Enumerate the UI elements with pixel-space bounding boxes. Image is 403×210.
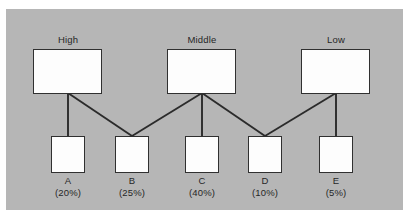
child-percent-e: (5%) [310, 187, 362, 198]
hierarchy-diagram: High Middle Low A (20%) B (25%) C (40%) … [0, 0, 403, 210]
connector-high-b [68, 93, 132, 136]
child-name-e: E [310, 175, 362, 186]
child-name-c: C [176, 175, 228, 186]
child-box-e[interactable] [319, 136, 353, 173]
parent-box-high[interactable] [33, 49, 102, 94]
child-box-b[interactable] [115, 136, 149, 173]
parent-title-low: Low [302, 34, 370, 45]
child-box-c[interactable] [185, 136, 219, 173]
child-percent-a: (20%) [42, 187, 94, 198]
parent-title-high: High [34, 34, 102, 45]
connector-middle-d [202, 93, 265, 136]
child-name-d: D [239, 175, 291, 186]
parent-box-middle[interactable] [167, 49, 236, 94]
connector-low-d [265, 93, 336, 136]
parent-title-middle: Middle [168, 34, 236, 45]
child-box-d[interactable] [248, 136, 282, 173]
child-percent-d: (10%) [239, 187, 291, 198]
child-name-a: A [42, 175, 94, 186]
parent-box-low[interactable] [301, 49, 370, 94]
child-name-b: B [106, 175, 158, 186]
child-percent-c: (40%) [176, 187, 228, 198]
child-percent-b: (25%) [106, 187, 158, 198]
diagram-canvas: High Middle Low A (20%) B (25%) C (40%) … [6, 9, 403, 210]
connector-middle-b [132, 93, 202, 136]
child-box-a[interactable] [51, 136, 85, 173]
